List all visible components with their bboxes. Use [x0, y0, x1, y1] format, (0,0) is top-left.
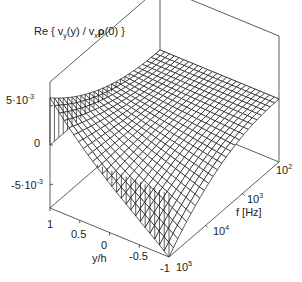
surface-plot [0, 0, 302, 282]
f-tick-1e4: 104 [213, 224, 229, 237]
wireframe-surface [50, 50, 279, 257]
z-tick-zero: 0 [34, 138, 40, 149]
f-tick-1e2: 102 [276, 163, 292, 176]
y-tick-1: 1 [47, 219, 53, 230]
y-tick-0: 0 [101, 240, 107, 251]
y-tick-minus-1: -1 [160, 263, 170, 274]
f-tick-1e5: 105 [176, 260, 192, 273]
z-axis-title: Re { vy(y) / vxρ(0) } [34, 26, 125, 39]
f-tick-1e3: 103 [247, 192, 263, 205]
y-tick-minus-0.5: -0.5 [129, 251, 148, 262]
f-axis-label: f [Hz] [236, 207, 262, 218]
z-tick-pos: 5·10-3 [6, 93, 34, 106]
y-tick-0.5: 0.5 [71, 229, 86, 240]
y-axis-label: y/h [92, 253, 107, 264]
z-tick-neg: -5·10-3 [11, 178, 43, 191]
